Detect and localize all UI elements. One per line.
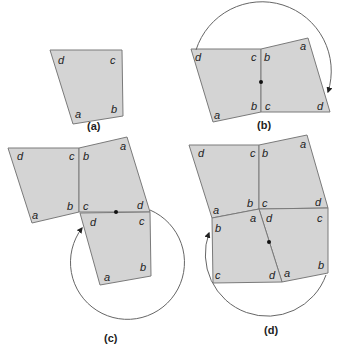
label-c: c [110,54,116,66]
label-c: c [251,51,257,63]
tiling-diagram: d c b a (a) d c b a a b c d (b) d c b a … [0,0,337,345]
label-b: b [67,200,73,212]
label-d: d [266,212,273,224]
label-c: c [69,150,75,162]
label-b: b [247,197,253,209]
label-d: d [315,196,322,208]
label-a: a [104,271,110,283]
caption-a: (a) [87,120,101,132]
label-d: d [317,100,324,112]
label-c: c [250,147,256,159]
label-c: c [265,100,271,112]
label-a: a [250,212,256,224]
label-b: b [251,100,257,112]
caption-d: (d) [264,324,278,336]
label-a: a [75,108,81,120]
rotation-center-icon [114,210,118,214]
rotation-center-icon [267,240,271,244]
label-b: b [111,103,117,115]
label-d: d [195,51,202,63]
panel-a: d c b a (a) [50,50,123,132]
rotation-center-icon [259,80,263,84]
panel-d: d c b a a b c d b a d c c d a b (d) [189,135,328,336]
label-a: a [32,209,38,221]
label-a: a [213,204,219,216]
panel-c: d c b a a b c d d c b a (c) [8,137,184,344]
label-d: d [198,147,205,159]
caption-c: (c) [104,332,118,344]
label-b: b [215,222,221,234]
label-b: b [318,259,324,271]
label-a: a [214,109,220,121]
label-a: a [300,138,306,150]
label-c: c [83,200,89,212]
label-c: c [317,212,323,224]
caption-b: (b) [257,119,271,131]
label-a: a [120,140,126,152]
label-c: c [262,197,268,209]
label-b: b [262,147,268,159]
label-a: a [300,40,306,52]
label-d: d [58,54,65,66]
label-c: c [215,269,221,281]
label-b: b [83,150,89,162]
label-b: b [264,51,270,63]
label-b: b [140,261,146,273]
label-d: d [269,269,276,281]
label-d: d [137,199,144,211]
label-c: c [139,215,145,227]
panel-b: d c b a a b c d (b) [191,2,331,131]
label-d: d [17,150,24,162]
label-a: a [284,267,290,279]
label-d: d [90,216,97,228]
